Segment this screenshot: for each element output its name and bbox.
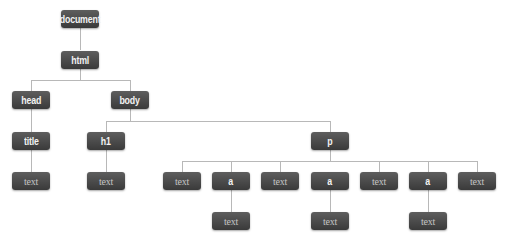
node-label: text xyxy=(372,176,386,187)
node-p-child-a-3: a xyxy=(409,172,447,190)
connector-p-child-2 xyxy=(231,161,232,172)
node-body: body xyxy=(111,91,149,109)
connector-a2-text xyxy=(330,190,331,212)
node-label: text xyxy=(273,176,287,187)
node-label: a xyxy=(328,176,333,187)
node-label: a xyxy=(426,176,431,187)
node-a1-text: text xyxy=(212,212,250,230)
node-p-child-text-3: text xyxy=(360,172,398,190)
node-p-child-text-2: text xyxy=(261,172,299,190)
connector-body-down xyxy=(130,109,131,121)
connector-to-body xyxy=(130,80,131,91)
node-label: body xyxy=(120,95,140,106)
connector-p-children-bar xyxy=(182,161,478,162)
node-document: document xyxy=(61,10,99,28)
node-label: text xyxy=(323,216,337,227)
connector-a3-text xyxy=(428,190,429,212)
node-p-child-a-2: a xyxy=(311,172,349,190)
connector-body-children-bar xyxy=(106,121,331,122)
connector-to-h1 xyxy=(106,121,107,132)
node-label: title xyxy=(24,136,39,147)
connector-p-down xyxy=(330,150,331,161)
connector-document-html xyxy=(80,28,81,50)
node-h1-text: text xyxy=(87,172,125,190)
node-label: head xyxy=(21,95,41,106)
connector-p-child-3 xyxy=(280,161,281,172)
node-label: text xyxy=(421,216,435,227)
node-label: text xyxy=(175,176,189,187)
node-label: document xyxy=(60,14,101,25)
connector-a1-text xyxy=(231,190,232,212)
node-label: text xyxy=(24,176,38,187)
node-a2-text: text xyxy=(311,212,349,230)
node-label: h1 xyxy=(101,136,111,147)
node-a3-text: text xyxy=(409,212,447,230)
connector-p-child-5 xyxy=(379,161,380,172)
node-title: title xyxy=(12,132,50,150)
connector-head-title xyxy=(31,109,32,132)
node-label: html xyxy=(71,55,89,66)
connector-html-children-bar xyxy=(31,80,131,81)
node-label: text xyxy=(224,216,238,227)
connector-to-p xyxy=(330,121,331,132)
connector-p-child-7 xyxy=(477,161,478,172)
node-h1: h1 xyxy=(87,132,125,150)
connector-p-child-1 xyxy=(182,161,183,172)
connector-h1-text xyxy=(106,150,107,172)
node-label: text xyxy=(99,176,113,187)
node-p: p xyxy=(311,132,349,150)
connector-title-text xyxy=(31,150,32,172)
node-label: a xyxy=(229,176,234,187)
node-html: html xyxy=(61,51,99,69)
node-label: text xyxy=(470,176,484,187)
node-p-child-a-1: a xyxy=(212,172,250,190)
connector-html-down xyxy=(80,68,81,80)
node-label: p xyxy=(327,136,332,147)
connector-p-child-6 xyxy=(428,161,429,172)
connector-to-head xyxy=(31,80,32,91)
node-p-child-text-1: text xyxy=(163,172,201,190)
node-title-text: text xyxy=(12,172,50,190)
node-head: head xyxy=(12,91,50,109)
dom-tree-diagram: document html head body title text h1 te… xyxy=(0,0,505,243)
node-p-child-text-4: text xyxy=(458,172,496,190)
